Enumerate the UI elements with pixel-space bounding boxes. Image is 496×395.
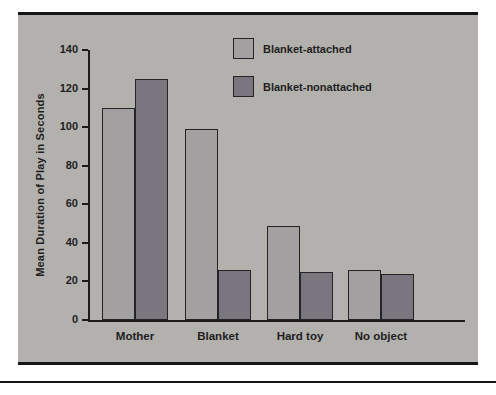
legend-label-nonattached: Blanket-nonattached [263, 81, 372, 93]
legend-swatch-nonattached [233, 76, 254, 97]
y-tick-mark [82, 88, 88, 90]
legend: Blanket-attached Blanket-nonattached [233, 38, 372, 114]
y-tick-mark [82, 165, 88, 167]
bar-blanket-attached [185, 129, 218, 320]
y-tick-mark [82, 203, 88, 205]
legend-label-attached: Blanket-attached [263, 43, 352, 55]
y-tick-mark [82, 319, 88, 321]
y-tick-label: 100 [38, 120, 78, 132]
y-tick-label: 120 [38, 82, 78, 94]
bar-no-object-nonattached [381, 274, 414, 320]
chart-panel: Mean Duration of Play in Seconds 0204060… [18, 12, 478, 365]
y-tick-mark [82, 242, 88, 244]
y-tick-mark [82, 280, 88, 282]
y-tick-label: 60 [38, 197, 78, 209]
page-divider-rule [0, 381, 496, 383]
bar-mother-attached [102, 108, 135, 320]
y-tick-label: 40 [38, 236, 78, 248]
y-tick-label: 80 [38, 159, 78, 171]
bar-mother-nonattached [135, 79, 168, 320]
y-tick-mark [82, 49, 88, 51]
legend-item-blanket-attached: Blanket-attached [233, 38, 372, 59]
x-category-label-no-object: No object [331, 330, 431, 342]
legend-item-blanket-nonattached: Blanket-nonattached [233, 76, 372, 97]
bar-hard-toy-attached [267, 226, 300, 321]
bar-hard-toy-nonattached [300, 272, 333, 320]
bar-blanket-nonattached [218, 270, 251, 320]
y-tick-label: 140 [38, 43, 78, 55]
y-axis-line [88, 50, 90, 320]
y-tick-label: 0 [38, 313, 78, 325]
y-tick-mark [82, 126, 88, 128]
x-axis-line [88, 320, 465, 322]
y-tick-label: 20 [38, 274, 78, 286]
scanned-figure-page: Mean Duration of Play in Seconds 0204060… [0, 0, 496, 395]
legend-swatch-attached [233, 38, 254, 59]
bar-no-object-attached [348, 270, 381, 320]
